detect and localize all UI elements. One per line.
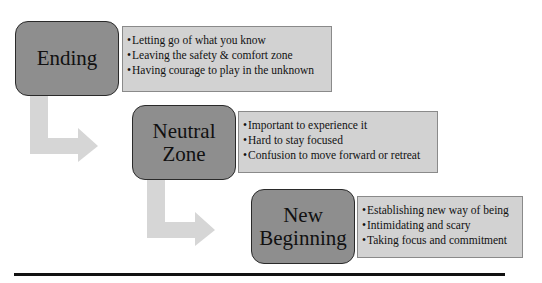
note-item: Important to experience it — [243, 118, 433, 133]
phase-label: Neutral Zone — [153, 120, 216, 166]
note-item: Letting go of what you know — [127, 33, 327, 48]
note-item: Taking focus and commitment — [362, 233, 518, 248]
transition-diagram: Letting go of what you know Leaving the … — [0, 0, 542, 283]
phase-box-new-beginning: New Beginning — [251, 189, 355, 264]
phase-box-ending: Ending — [15, 21, 119, 96]
phase-label: Ending — [37, 47, 98, 70]
bent-arrow-icon — [28, 96, 100, 164]
note-item: Establishing new way of being — [362, 203, 518, 218]
phase-notes-neutral-zone: Important to experience it Hard to stay … — [238, 111, 438, 173]
note-item: Confusion to move forward or retreat — [243, 148, 433, 163]
note-item: Hard to stay focused — [243, 133, 433, 148]
phase-notes-ending: Letting go of what you know Leaving the … — [122, 26, 332, 92]
note-item: Intimidating and scary — [362, 218, 518, 233]
note-item: Leaving the safety & comfort zone — [127, 48, 327, 63]
divider-line — [14, 273, 505, 276]
bent-arrow-icon — [145, 180, 217, 248]
phase-notes-new-beginning: Establishing new way of being Intimidati… — [357, 196, 523, 258]
note-item: Having courage to play in the unknown — [127, 63, 327, 78]
phase-label: New Beginning — [259, 204, 347, 250]
phase-box-neutral-zone: Neutral Zone — [132, 105, 236, 180]
